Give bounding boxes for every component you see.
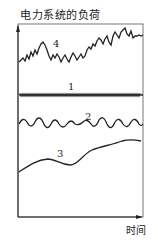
curve-1 [19, 94, 143, 96]
x-axis-label: 时间 [126, 222, 146, 237]
curve-3-label: 3 [57, 148, 63, 159]
curve-2 [19, 118, 143, 128]
curve-2-label: 2 [85, 111, 91, 122]
y-axis-arrow-icon [16, 25, 20, 32]
curve-1-label: 1 [68, 81, 74, 92]
load-diagram: 4 1 2 3 [0, 0, 158, 246]
curve-4 [19, 28, 143, 62]
curve-3 [19, 140, 141, 172]
x-axis-arrow-icon [136, 215, 143, 219]
curve-4-label: 4 [53, 38, 59, 49]
